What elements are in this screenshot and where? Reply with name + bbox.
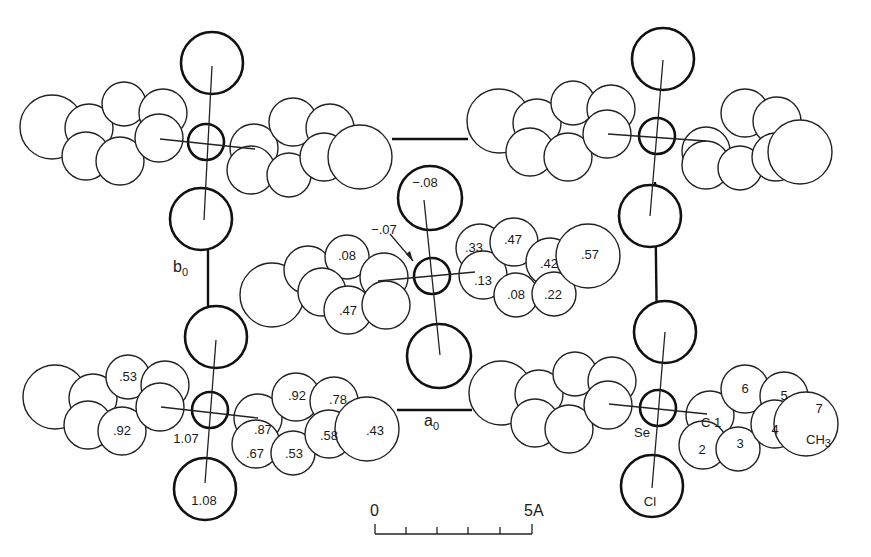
molecule-upper-left <box>20 32 392 250</box>
height-label: 1.07 <box>173 431 198 446</box>
height-label: .92 <box>113 423 131 438</box>
height-label: .42 <box>540 256 558 271</box>
height-label: .47 <box>339 303 357 318</box>
height-label: .08 <box>507 287 525 302</box>
molecule-upper-right <box>467 28 832 247</box>
height-label: .13 <box>474 273 492 288</box>
scale-start-label: 0 <box>370 502 379 519</box>
height-label: .43 <box>366 423 384 438</box>
atom-label-c6: 6 <box>741 381 748 396</box>
axis-label-a0: a0 <box>424 412 439 432</box>
height-label: .87 <box>254 422 272 437</box>
atom-label-c4: 4 <box>771 422 778 437</box>
height-label: .78 <box>329 392 347 407</box>
height-label: .47 <box>504 232 522 247</box>
height-label: −.08 <box>412 175 438 190</box>
molecule-lower-right <box>469 301 838 517</box>
atom-label-c7: 7 <box>815 401 822 416</box>
atom-label-se: Se <box>634 425 650 440</box>
height-label: .58 <box>320 428 338 443</box>
height-label: .08 <box>338 248 356 263</box>
height-label: .57 <box>581 247 599 262</box>
atom-label-c2: 2 <box>698 442 705 457</box>
height-label: .53 <box>285 446 303 461</box>
scale-bar: 0 5A <box>370 502 544 534</box>
axis-label-b0: b0 <box>173 258 188 278</box>
atom-label-cl: Cl <box>644 494 656 509</box>
atom-label-c3: 3 <box>736 436 743 451</box>
scale-end-label: 5A <box>524 502 544 519</box>
height-label: .53 <box>119 369 137 384</box>
height-label: 1.08 <box>191 493 216 508</box>
height-label: −.07 <box>371 222 397 237</box>
height-label: .67 <box>246 446 264 461</box>
atom-label-c1: C 1 <box>701 415 721 430</box>
height-label: .33 <box>465 240 483 255</box>
molecule-center <box>240 166 620 388</box>
height-label: .92 <box>288 388 306 403</box>
crystal-structure-diagram: −.08 −.07 .08 .47 .33 .47 .13 .42 .57 .0… <box>0 0 871 557</box>
atom-label-c5: 5 <box>780 388 787 403</box>
molecule-lower-left <box>23 306 399 520</box>
height-label: .22 <box>544 287 562 302</box>
